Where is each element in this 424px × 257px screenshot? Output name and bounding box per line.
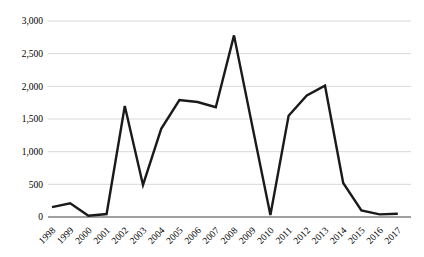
x-tick-label: 2014	[328, 225, 349, 246]
x-tick-label: 2008	[219, 225, 240, 246]
gridlines	[48, 21, 411, 184]
y-tick-label: 1,500	[22, 114, 44, 124]
x-tick-label: 2000	[73, 225, 94, 246]
y-tick-label: 1,000	[22, 147, 44, 157]
x-tick-label: 2017	[383, 225, 404, 246]
x-tick-label: 2004	[146, 225, 167, 246]
y-tick-label: 500	[29, 180, 44, 190]
x-tick-label: 2009	[237, 225, 258, 246]
x-tick-label: 2001	[92, 225, 113, 246]
x-tick-label: 2006	[183, 225, 204, 246]
x-tick-label: 1998	[37, 225, 58, 246]
x-tick-label: 1999	[55, 225, 76, 246]
x-tick-label: 2003	[128, 225, 149, 246]
data-series-line	[52, 35, 398, 215]
y-tick-label: 2,500	[22, 49, 44, 59]
x-tick-label: 2011	[274, 225, 294, 245]
y-tick-label: 0	[38, 212, 43, 222]
x-tick-label: 2007	[201, 225, 222, 246]
chart-canvas: 05001,0001,5002,0002,5003,000 1998199920…	[0, 0, 424, 257]
line-chart: 05001,0001,5002,0002,5003,000 1998199920…	[0, 0, 424, 257]
x-tick-label: 2005	[164, 225, 185, 246]
x-tick-label: 2016	[365, 225, 386, 246]
series-polyline	[52, 35, 398, 215]
x-axis: 1998199920002001200220032004200520062007…	[37, 225, 403, 246]
y-axis: 05001,0001,5002,0002,5003,000	[22, 16, 44, 222]
y-tick-label: 2,000	[22, 82, 44, 92]
x-tick-label: 2012	[292, 225, 313, 246]
y-tick-label: 3,000	[22, 16, 44, 26]
x-tick-label: 2010	[255, 225, 276, 246]
x-tick-label: 2002	[110, 225, 131, 246]
x-tick-label: 2013	[310, 225, 331, 246]
x-tick-label: 2015	[346, 225, 367, 246]
